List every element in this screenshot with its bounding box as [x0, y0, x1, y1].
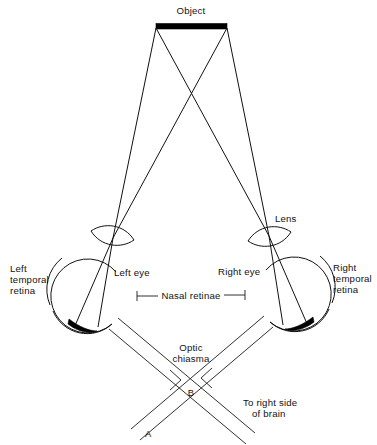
ray-left-eye-from-object-left: [74, 28, 156, 328]
optic-nerve-right-edge-a: [131, 316, 264, 429]
object-label: Object: [177, 5, 206, 16]
ray-bundle-left-eye: [74, 28, 227, 328]
right-temporal-retina-line-1: Right: [333, 262, 357, 273]
right-lens-group: Lens: [248, 213, 297, 246]
right-eye-group: [266, 256, 335, 332]
optic-nerve-left-eye: [109, 318, 255, 444]
ray-bundle-right-eye: [156, 28, 308, 326]
right-temporal-retina-line-3: retina: [333, 284, 359, 295]
chiasma-notch-left: [170, 370, 181, 390]
left-eye-label: Left eye: [114, 267, 150, 278]
chiasma-notch-right: [201, 368, 212, 388]
optic-chiasma-label-group: Optic chiasma: [172, 342, 210, 364]
object-group: Object: [156, 5, 227, 29]
ray-right-eye-from-object-right: [227, 28, 308, 326]
left-temporal-retina-arc: [47, 258, 62, 305]
right-temporal-retina-line-2: temporal: [333, 273, 372, 284]
optic-nerve-left-edge-a: [118, 318, 255, 433]
optic-chiasma-line-1: Optic: [179, 342, 202, 353]
optic-nerve-left-edge-b: [109, 329, 246, 444]
visual-pathway-diagram: Object Lens: [0, 0, 377, 445]
point-a-label: A: [145, 428, 152, 439]
left-temporal-retina-line-3: retina: [10, 285, 36, 296]
left-temporal-retina-line-1: Left: [10, 263, 27, 274]
diagram-canvas: Object Lens: [0, 0, 377, 445]
left-temporal-retina-line-2: temporal: [10, 274, 49, 285]
object-bar: [156, 24, 227, 30]
to-brain-label-group: To right side of brain: [243, 397, 297, 419]
lens-label: Lens: [275, 213, 297, 224]
left-temporal-retina-label-group: Left temporal retina: [10, 263, 49, 296]
ray-left-eye-from-object-right: [98, 28, 227, 327]
to-brain-line-2: of brain: [252, 408, 286, 419]
optic-nerve-right-eye: [131, 316, 273, 440]
optic-chiasma-line-2: chiasma: [172, 353, 210, 364]
ray-right-eye-from-object-left: [156, 28, 283, 325]
right-eye-label: Right eye: [218, 266, 260, 277]
left-eye-group: [47, 258, 116, 334]
right-temporal-retina-label-group: Right temporal retina: [333, 262, 372, 295]
point-b-label: B: [188, 387, 194, 398]
to-brain-line-1: To right side: [243, 397, 297, 408]
nasal-retinae-label: Nasal retinae: [161, 290, 220, 301]
